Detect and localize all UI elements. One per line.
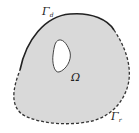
- omega-label: Ω: [70, 71, 80, 84]
- domain-diagram: Ω Γd Γr: [0, 0, 139, 133]
- gamma-d-label: Γd: [41, 5, 54, 18]
- domain-region: [14, 14, 130, 124]
- gamma-r-label: Γr: [110, 110, 123, 123]
